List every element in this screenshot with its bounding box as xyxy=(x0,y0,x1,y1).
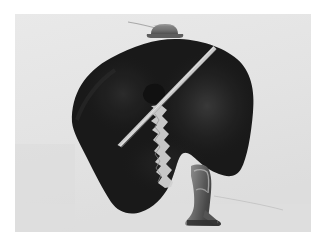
wire-description: Faint thin line extending to the right f… xyxy=(0,0,1,1)
film-grain xyxy=(15,14,311,232)
photograph-content xyxy=(15,14,311,232)
photograph-frame xyxy=(15,14,311,232)
silhouette-description: Large irregular black shape occupying th… xyxy=(0,0,1,1)
image-title: Black silhouette figure with hat, pole a… xyxy=(0,0,1,1)
pole-description: Pale narrow stick running diagonally fro… xyxy=(0,0,1,1)
image-canvas: Black silhouette figure with hat, pole a… xyxy=(0,0,326,247)
hat-description: Small flat-topped gray cap resting on th… xyxy=(0,0,1,1)
antenna-description: Very thin light line rising to the upper… xyxy=(0,0,1,1)
boot-description: Small gray high-heeled boot hanging belo… xyxy=(0,0,1,1)
profile-notch-description: Narrow jagged light gap in the black mas… xyxy=(0,0,1,1)
